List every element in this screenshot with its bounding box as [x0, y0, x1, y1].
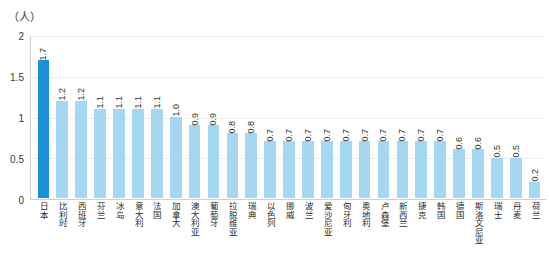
bar[interactable] — [189, 125, 201, 198]
bar-slot[interactable]: 0.7 — [355, 36, 374, 198]
bar[interactable] — [434, 141, 446, 198]
x-axis-label-slot: 加拿大 — [165, 202, 184, 274]
bar[interactable] — [227, 133, 239, 198]
bar-value-label: 1.1 — [96, 96, 105, 109]
bar-value-label: 0.7 — [436, 129, 445, 142]
bar-value-label: 1.1 — [133, 96, 142, 109]
x-axis-label-slot: 荷兰 — [525, 202, 544, 274]
bar[interactable] — [56, 101, 68, 198]
bar-value-label: 0.6 — [473, 137, 482, 150]
bar[interactable] — [94, 109, 106, 198]
bar[interactable] — [359, 141, 371, 198]
bar-slot[interactable]: 0.7 — [393, 36, 412, 198]
x-axis-label-slot: 斯洛文尼亚 — [468, 202, 487, 274]
bar[interactable] — [397, 141, 409, 198]
x-axis-category-label: 拉脱维亚 — [227, 202, 236, 236]
bar-slot[interactable]: 0.7 — [431, 36, 450, 198]
bar[interactable] — [510, 158, 522, 199]
bar-value-label: 0.7 — [285, 129, 294, 142]
bar[interactable] — [283, 141, 295, 198]
bar[interactable] — [529, 182, 541, 198]
x-axis-category-label: 意大利 — [133, 202, 142, 228]
x-axis-label-slot: 捷克 — [411, 202, 430, 274]
x-axis-label-slot: 波兰 — [298, 202, 317, 274]
bar-slot[interactable]: 1.2 — [72, 36, 91, 198]
bar[interactable] — [245, 133, 257, 198]
bar[interactable] — [170, 117, 182, 198]
bar-slot[interactable]: 0.7 — [374, 36, 393, 198]
bar-slot[interactable]: 0.7 — [298, 36, 317, 198]
x-axis-label-slot: 以色列 — [260, 202, 279, 274]
bar[interactable] — [151, 109, 163, 198]
bar-slot[interactable]: 0.7 — [412, 36, 431, 198]
bar-value-label: 0.2 — [530, 169, 539, 182]
bar-slot[interactable]: 0.7 — [261, 36, 280, 198]
bar-slot[interactable]: 0.6 — [468, 36, 487, 198]
bar-slot[interactable]: 1.1 — [147, 36, 166, 198]
y-axis-tick-label: 1 — [18, 113, 24, 124]
bar-slot[interactable]: 1.1 — [110, 36, 129, 198]
bar-slot[interactable]: 0.7 — [280, 36, 299, 198]
bar-slot[interactable]: 1.0 — [166, 36, 185, 198]
bar-slot[interactable]: 1.1 — [128, 36, 147, 198]
x-axis-category-label: 冰岛 — [114, 202, 123, 219]
x-axis-label-slot: 澳大利亚 — [184, 202, 203, 274]
x-axis-category-label: 波兰 — [303, 202, 312, 219]
bar-slot[interactable]: 0.5 — [506, 36, 525, 198]
bar[interactable] — [264, 141, 276, 198]
bar[interactable] — [302, 141, 314, 198]
bar-slot[interactable]: 0.8 — [242, 36, 261, 198]
bar[interactable] — [415, 141, 427, 198]
x-axis-category-label: 加拿大 — [170, 202, 179, 228]
x-axis-label-slot: 比利时 — [52, 202, 71, 274]
x-axis-category-label: 新西兰 — [398, 202, 407, 228]
x-axis-label-slot: 爱沙尼亚 — [317, 202, 336, 274]
bar-value-label: 0.7 — [398, 129, 407, 142]
bar-value-label: 0.9 — [209, 113, 218, 126]
bar-value-label: 0.7 — [379, 129, 388, 142]
bar-slot[interactable]: 0.9 — [185, 36, 204, 198]
bar-slot[interactable]: 1.7 — [34, 36, 53, 198]
x-axis-label-slot: 卢森堡 — [374, 202, 393, 274]
x-axis-category-label: 澳大利亚 — [189, 202, 198, 236]
x-axis-category-label: 法国 — [152, 202, 161, 219]
bar[interactable] — [132, 109, 144, 198]
bar-value-label: 0.8 — [247, 121, 256, 134]
bar-slot[interactable]: 0.7 — [336, 36, 355, 198]
bar[interactable] — [453, 149, 465, 198]
bar-series: 1.71.21.21.11.11.11.11.00.90.90.80.80.70… — [32, 36, 546, 198]
bar-value-label: 0.7 — [266, 129, 275, 142]
x-axis-label-slot: 匈牙利 — [336, 202, 355, 274]
bar-value-label: 0.6 — [455, 137, 464, 150]
x-axis-label-slot: 意大利 — [128, 202, 147, 274]
bar[interactable] — [378, 141, 390, 198]
bar[interactable] — [75, 101, 87, 198]
x-axis-label-slot: 西班牙 — [71, 202, 90, 274]
x-axis-label-slot: 葡萄牙 — [203, 202, 222, 274]
x-axis-category-label: 韩国 — [435, 202, 444, 219]
bar[interactable] — [113, 109, 125, 198]
bar-slot[interactable]: 0.9 — [204, 36, 223, 198]
bar[interactable] — [340, 141, 352, 198]
y-axis-tick-label: 2 — [18, 31, 24, 42]
x-axis-category-label: 以色列 — [265, 202, 274, 228]
bar-slot[interactable]: 1.2 — [53, 36, 72, 198]
bar[interactable] — [208, 125, 220, 198]
bar-value-label: 1.1 — [115, 96, 124, 109]
bar[interactable] — [321, 141, 333, 198]
bar-slot[interactable]: 0.6 — [450, 36, 469, 198]
bar[interactable] — [491, 158, 503, 199]
y-axis-tick-label: 0.5 — [10, 154, 24, 165]
bar-value-label: 1.0 — [171, 104, 180, 117]
bar-value-label: 0.7 — [322, 129, 331, 142]
bar-slot[interactable]: 0.2 — [525, 36, 544, 198]
bar[interactable] — [38, 60, 50, 198]
x-axis-category-label: 捷克 — [416, 202, 425, 219]
bar-slot[interactable]: 0.8 — [223, 36, 242, 198]
bar[interactable] — [472, 149, 484, 198]
bar-slot[interactable]: 0.7 — [317, 36, 336, 198]
bar-slot[interactable]: 0.5 — [487, 36, 506, 198]
x-axis-category-label: 德国 — [454, 202, 463, 219]
x-axis-label-slot: 挪威 — [279, 202, 298, 274]
bar-slot[interactable]: 1.1 — [91, 36, 110, 198]
